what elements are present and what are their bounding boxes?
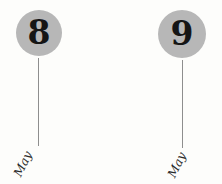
- event-stem-line: [182, 60, 183, 148]
- event-day-circle: 9: [158, 10, 206, 58]
- timeline-figure: 8 May 9 May: [0, 0, 222, 184]
- event-month-label: May: [166, 151, 188, 180]
- event-month-label: May: [12, 150, 34, 179]
- event-stem-line: [38, 58, 39, 146]
- event-day-number: 9: [171, 17, 194, 52]
- event-day-circle: 8: [16, 10, 62, 56]
- event-day-number: 8: [28, 16, 51, 51]
